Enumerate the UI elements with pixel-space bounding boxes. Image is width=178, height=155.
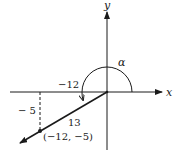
hypotenuse-label: 13 — [68, 117, 81, 128]
point-label: (−12, −5) — [43, 131, 93, 142]
angle-label: α — [118, 56, 126, 69]
x-axis-label: x — [166, 86, 173, 99]
vertical-segment-label: − 5 — [18, 105, 36, 116]
origin-marker — [106, 91, 109, 94]
horizontal-segment-label: −12 — [58, 79, 79, 90]
y-axis-label: y — [103, 0, 111, 12]
point-marker — [38, 129, 42, 133]
diagram-canvas: y x α −12 − 5 13 (−12, −5) — [0, 0, 178, 155]
